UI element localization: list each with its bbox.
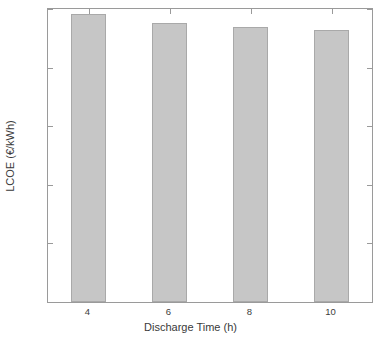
plot-area bbox=[47, 8, 373, 303]
x-tick-label: 6 bbox=[166, 306, 171, 317]
x-tick-label: 4 bbox=[85, 306, 90, 317]
bar bbox=[152, 23, 187, 302]
y-tick-mark bbox=[48, 302, 53, 303]
x-tick-label: 8 bbox=[247, 306, 252, 317]
bars-layer bbox=[48, 9, 372, 302]
bar-chart-figure: LCOE (€/kWh) 00.050.10.150.20.2546810 Di… bbox=[0, 0, 381, 339]
bar bbox=[314, 30, 349, 302]
x-tick-label: 10 bbox=[325, 306, 336, 317]
bar bbox=[233, 27, 268, 302]
y-tick-mark-right bbox=[367, 302, 372, 303]
x-axis-title-text: Discharge Time (h) bbox=[144, 321, 237, 333]
x-axis-title: Discharge Time (h) bbox=[0, 321, 381, 333]
y-axis-title-text: LCOE (€/kWh) bbox=[4, 120, 16, 192]
y-axis-title: LCOE (€/kWh) bbox=[2, 0, 18, 311]
bar bbox=[71, 14, 106, 302]
